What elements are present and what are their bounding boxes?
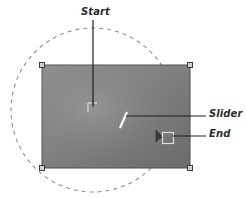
handle-top-right[interactable] [188,63,193,68]
handle-bottom-left[interactable] [40,166,45,171]
label-start: Start [81,6,110,17]
label-slider: Slider [209,108,243,119]
handle-bottom-right[interactable] [188,166,193,171]
drag-gesture-diagram: Start Slider End [0,0,246,198]
end-marker-box-fill [164,134,173,143]
diagram-canvas [0,0,246,198]
handle-top-left[interactable] [40,63,45,68]
label-end: End [209,128,230,139]
